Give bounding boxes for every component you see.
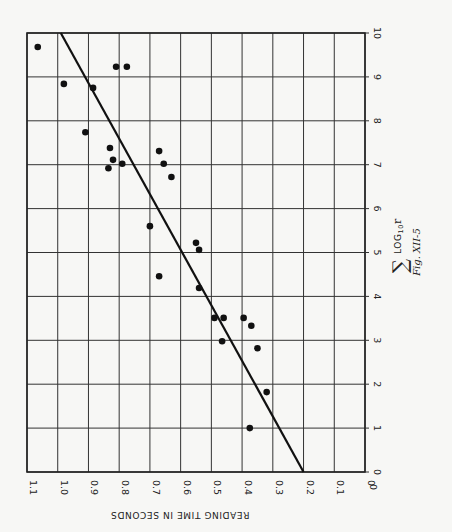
y-axis-ticks: 0.10.20.30.40.50.60.70.80.91.01.10 xyxy=(28,480,377,495)
data-point xyxy=(246,425,253,432)
data-point xyxy=(156,148,163,155)
x-tick-label: 9 xyxy=(372,74,383,80)
data-point xyxy=(220,315,227,322)
y-tick-label: 0.1 xyxy=(335,480,346,495)
data-points xyxy=(34,44,270,432)
y-tick-label: 0.8 xyxy=(120,480,131,495)
x-tick-label: 10 xyxy=(372,27,383,39)
sigma-symbol: ∑ xyxy=(388,258,412,273)
data-point xyxy=(263,389,270,396)
figure-caption: Fig. XII-5 xyxy=(411,228,422,277)
y-tick-label: 0.7 xyxy=(151,480,162,495)
y-axis-title: READING TIME IN SECONDS xyxy=(111,510,250,520)
data-point xyxy=(61,81,68,88)
data-point xyxy=(119,161,126,168)
data-point xyxy=(82,129,89,136)
x-tick-label: 6 xyxy=(372,206,383,212)
data-point xyxy=(248,323,255,330)
x-tick-label: 0 xyxy=(372,469,383,475)
y-tick-label: 0.4 xyxy=(243,480,254,495)
chart-grid xyxy=(27,33,365,472)
y-tick-label: 1.1 xyxy=(28,480,39,495)
y-tick-label: 1.0 xyxy=(59,480,70,495)
data-point xyxy=(34,44,41,51)
y-tick-label: 0.5 xyxy=(212,480,223,495)
data-point xyxy=(90,85,97,92)
y-tick-label: 0.3 xyxy=(274,480,285,495)
x-axis-ticks: 012345678910 xyxy=(365,27,383,475)
x-tick-label: 8 xyxy=(372,118,383,124)
x-tick-label: 4 xyxy=(372,293,383,299)
x-axis-var: r xyxy=(391,218,404,224)
x-tick-label: 3 xyxy=(372,337,383,343)
data-point xyxy=(110,157,117,164)
y-tick-label: 0.9 xyxy=(89,480,100,495)
data-point xyxy=(211,315,218,322)
data-point xyxy=(156,273,163,280)
y-tick-label: 0.6 xyxy=(182,480,193,495)
data-point xyxy=(124,64,131,71)
scatter-chart: 012345678910 0.10.20.30.40.50.60.70.80.9… xyxy=(0,0,452,532)
data-point xyxy=(254,345,261,352)
data-point xyxy=(196,247,203,254)
x-tick-label: 7 xyxy=(372,162,383,168)
y-tick-label: 0.2 xyxy=(305,480,316,495)
x-axis-subscript: 10 xyxy=(397,224,405,233)
data-point xyxy=(196,285,203,292)
data-point xyxy=(105,165,112,172)
x-tick-label: 2 xyxy=(372,381,383,387)
x-tick-label: 5 xyxy=(372,249,383,255)
data-point xyxy=(240,315,247,322)
corner-zero-label: 0 xyxy=(368,484,379,490)
svg-text:LOG10r: LOG10r xyxy=(391,218,405,254)
data-point xyxy=(147,223,154,230)
data-point xyxy=(219,338,226,345)
data-point xyxy=(107,145,114,152)
data-point xyxy=(113,64,120,71)
data-point xyxy=(160,161,167,168)
x-tick-label: 1 xyxy=(372,425,383,431)
data-point xyxy=(193,240,200,247)
x-axis-log-label: LOG xyxy=(393,233,403,254)
x-axis-title: ∑ LOG10r xyxy=(388,218,412,273)
data-point xyxy=(168,174,175,181)
